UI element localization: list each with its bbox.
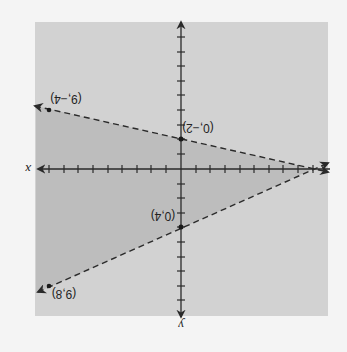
label-9-neg4: (9,−4) xyxy=(50,92,82,106)
point-0-4 xyxy=(179,225,184,230)
y-axis-label: y xyxy=(178,318,186,333)
label-0-neg2: (0,−2) xyxy=(182,121,214,135)
label-9-8: (9,8) xyxy=(52,287,77,301)
coordinate-plane-diagram: (9,−4) (0,−2) (0,4) (9,8) x y xyxy=(0,0,347,352)
point-9-neg4 xyxy=(47,108,52,113)
x-axis-label: x xyxy=(25,162,32,177)
label-0-4: (0,4) xyxy=(151,209,176,223)
point-0-neg2 xyxy=(179,137,184,142)
point-9-8 xyxy=(47,284,52,289)
